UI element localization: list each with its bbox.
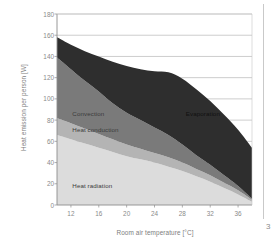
series-label-evaporation: Evaporation bbox=[186, 110, 220, 117]
series-label-convection: Convection bbox=[72, 110, 104, 117]
plot-area bbox=[0, 0, 275, 247]
series-label-heat-radiation: Heat radiation bbox=[72, 182, 112, 189]
page-canvas: 3 Heat emission per person [W] Room air … bbox=[0, 0, 275, 247]
series-label-heat-conduction: Heat conduction bbox=[72, 126, 118, 133]
heat-emission-area-chart: Heat emission per person [W] Room air te… bbox=[0, 0, 275, 247]
